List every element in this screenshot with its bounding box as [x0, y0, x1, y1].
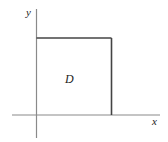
y-axis-label: y	[26, 7, 31, 18]
diagram-canvas	[0, 0, 168, 142]
x-axis-label: x	[152, 116, 157, 127]
diagram: y x D	[0, 0, 168, 142]
region-label: D	[65, 73, 74, 85]
